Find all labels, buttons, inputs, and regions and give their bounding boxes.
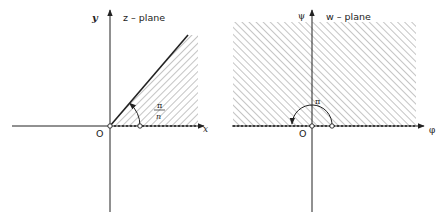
wedge-region xyxy=(110,35,198,126)
origin-label: O xyxy=(96,128,103,139)
axis-point xyxy=(330,124,334,128)
origin-point xyxy=(108,124,112,128)
origin-label: O xyxy=(299,128,306,139)
angle-label-denominator: n xyxy=(156,112,161,121)
upper-half-plane-region xyxy=(233,22,416,126)
x-axis-label: x xyxy=(203,124,208,134)
angle-label-numerator: π xyxy=(157,101,162,110)
w-plane-panel: ψ w – plane φ O π xyxy=(232,10,435,212)
angle-label: π xyxy=(315,97,320,106)
axis-point xyxy=(138,124,142,128)
w-plane-label: w – plane xyxy=(326,11,371,22)
z-plane-label: z – plane xyxy=(123,12,165,23)
psi-axis-label: ψ xyxy=(298,11,305,21)
conformal-map-diagram: y z – plane x O π n ψ w – plane φ O π xyxy=(0,0,443,219)
z-plane-panel: y z – plane x O π n xyxy=(12,10,208,212)
phi-axis-label: φ xyxy=(429,125,435,135)
y-axis-label: y xyxy=(91,12,99,23)
origin-point xyxy=(310,124,314,128)
